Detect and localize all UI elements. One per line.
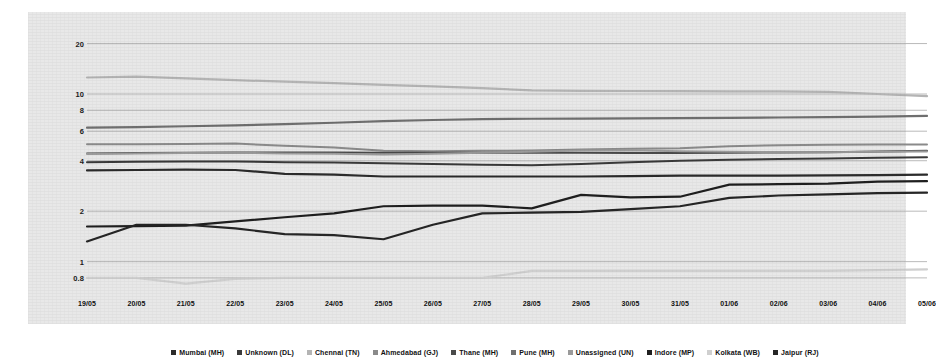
y-axis: 2010864210.8 — [58, 40, 84, 293]
chart-legend: Mumbai (MH)Unknown (DL)Chennai (TN)Ahmed… — [56, 342, 934, 362]
series-line — [87, 144, 927, 152]
x-axis-tick-label: 02/06 — [770, 300, 788, 307]
legend-item[interactable]: Jaipur (RJ) — [773, 349, 819, 356]
legend-item[interactable]: Unassigned (UN) — [568, 349, 634, 356]
series-line — [87, 77, 927, 96]
legend-label: Kolkata (WB) — [715, 349, 760, 356]
legend-item[interactable]: Pune (MH) — [511, 349, 555, 356]
series-line — [87, 181, 927, 226]
x-axis-tick-label: 28/05 — [523, 300, 541, 307]
series-line — [87, 193, 927, 242]
y-axis-tick-label: 0.8 — [73, 273, 84, 282]
series-canvas — [87, 40, 927, 293]
legend-label: Thane (MH) — [459, 349, 498, 356]
x-axis-tick-label: 25/05 — [374, 300, 392, 307]
legend-item[interactable]: Unknown (DL) — [237, 349, 294, 356]
x-axis-tick-label: 24/05 — [325, 300, 343, 307]
y-axis-tick-label: 10 — [75, 90, 84, 99]
legend-swatch-icon — [707, 350, 712, 355]
x-axis-tick-label: 04/06 — [869, 300, 887, 307]
plot-area — [87, 40, 927, 293]
legend-swatch-icon — [373, 350, 378, 355]
x-axis-tick-label: 29/05 — [572, 300, 590, 307]
series-line — [87, 157, 927, 165]
legend-swatch-icon — [307, 350, 312, 355]
legend-item[interactable]: Mumbai (MH) — [171, 349, 224, 356]
x-axis-tick-label: 23/05 — [276, 300, 294, 307]
x-axis-tick-label: 21/05 — [177, 300, 195, 307]
y-axis-tick-label: 6 — [80, 127, 84, 136]
x-axis-tick-label: 26/05 — [424, 300, 442, 307]
legend-swatch-icon — [511, 350, 516, 355]
y-axis-tick-label: 2 — [80, 207, 84, 216]
legend-swatch-icon — [451, 350, 456, 355]
x-axis-tick-label: 30/05 — [622, 300, 640, 307]
x-axis-tick-label: 22/05 — [226, 300, 244, 307]
legend-swatch-icon — [237, 350, 242, 355]
legend-label: Unassigned (UN) — [576, 349, 634, 356]
chart-panel: 2010864210.8 19/0520/0521/0522/0523/0524… — [28, 12, 906, 324]
legend-label: Mumbai (MH) — [179, 349, 224, 356]
legend-label: Indore (MP) — [655, 349, 695, 356]
series-paths — [87, 77, 927, 284]
legend-label: Unknown (DL) — [245, 349, 294, 356]
x-axis-tick-label: 19/05 — [78, 300, 96, 307]
series-line — [87, 116, 927, 128]
legend-swatch-icon — [171, 350, 176, 355]
legend-label: Jaipur (RJ) — [781, 349, 819, 356]
y-axis-tick-label: 4 — [80, 156, 84, 165]
y-axis-tick-label: 1 — [80, 257, 84, 266]
legend-label: Chennai (TN) — [315, 349, 360, 356]
x-axis-tick-label: 01/06 — [720, 300, 738, 307]
legend-label: Pune (MH) — [519, 349, 555, 356]
legend-item[interactable]: Thane (MH) — [451, 349, 498, 356]
legend-item[interactable]: Indore (MP) — [647, 349, 695, 356]
legend-swatch-icon — [568, 350, 573, 355]
x-axis: 19/0520/0521/0522/0523/0524/0525/0526/05… — [87, 300, 927, 316]
legend-label: Ahmedabad (GJ) — [381, 349, 438, 356]
y-axis-tick-label: 20 — [75, 39, 84, 48]
x-axis-tick-label: 27/05 — [473, 300, 491, 307]
series-line — [87, 170, 927, 177]
series-line — [87, 269, 927, 283]
legend-swatch-icon — [773, 350, 778, 355]
y-axis-tick-label: 8 — [80, 106, 84, 115]
legend-item[interactable]: Chennai (TN) — [307, 349, 360, 356]
x-axis-tick-label: 20/05 — [127, 300, 145, 307]
x-axis-tick-label: 31/05 — [671, 300, 689, 307]
legend-item[interactable]: Kolkata (WB) — [707, 349, 760, 356]
legend-item[interactable]: Ahmedabad (GJ) — [373, 349, 438, 356]
x-axis-tick-label: 03/06 — [819, 300, 837, 307]
legend-swatch-icon — [647, 350, 652, 355]
x-axis-tick-label: 05/06 — [918, 300, 936, 307]
